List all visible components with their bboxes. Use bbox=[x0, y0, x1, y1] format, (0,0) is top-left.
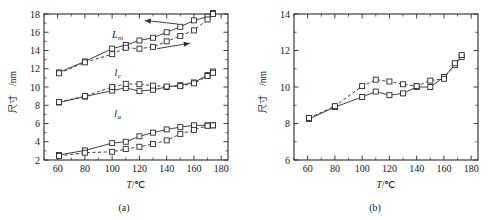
a-data-marker bbox=[191, 127, 196, 132]
b-ytick-label: 14 bbox=[280, 9, 290, 20]
a-ytick-label: 16 bbox=[30, 27, 40, 38]
a-data-marker bbox=[191, 81, 196, 86]
b-ytick-label: 12 bbox=[280, 45, 290, 56]
curve-label-lc-text: lc bbox=[114, 67, 121, 80]
b-xtick-label: 140 bbox=[409, 163, 424, 174]
a-data-marker bbox=[123, 147, 128, 152]
a-data-marker bbox=[211, 12, 216, 17]
a-data-marker bbox=[178, 125, 183, 130]
panel-b-svg: 608010012014016018068101214 T /℃ 尺寸 /nm … bbox=[248, 0, 497, 220]
b-data-marker bbox=[401, 91, 406, 96]
a-data-marker bbox=[178, 33, 183, 38]
a-xtick-label: 180 bbox=[214, 163, 229, 174]
a-data-marker bbox=[82, 150, 87, 155]
a-data-marker bbox=[56, 153, 61, 158]
b-data-marker bbox=[428, 85, 433, 90]
panel-b-axes-frame bbox=[294, 14, 478, 160]
a-data-marker bbox=[123, 139, 128, 144]
b-xtick-label: 80 bbox=[330, 163, 340, 174]
a-ytick-label: 12 bbox=[30, 63, 40, 74]
panel-b-x-axis-label-unit: /℃ bbox=[382, 180, 396, 190]
b-ytick-label: 10 bbox=[280, 82, 290, 93]
a-data-marker bbox=[151, 83, 156, 88]
a-data-marker bbox=[211, 70, 216, 75]
curve-label-Lm: Lm bbox=[111, 29, 123, 42]
panel-a-tick-labels: 608010012014016018024681012141618 bbox=[30, 9, 229, 175]
a-data-marker bbox=[191, 28, 196, 33]
a-data-marker bbox=[110, 52, 115, 57]
a-xtick-label: 160 bbox=[186, 163, 201, 174]
a-data-marker bbox=[151, 44, 156, 49]
b-data-marker bbox=[360, 95, 365, 100]
a-data-marker bbox=[164, 138, 169, 143]
b-xtick-label: 120 bbox=[382, 163, 397, 174]
a-xtick-label: 140 bbox=[159, 163, 174, 174]
b-xtick-label: 60 bbox=[303, 163, 313, 174]
b-data-marker bbox=[306, 116, 311, 121]
a-data-marker bbox=[137, 89, 142, 94]
a-data-marker bbox=[137, 82, 142, 87]
panel-b-ticks bbox=[294, 14, 478, 160]
a-ytick-label: 8 bbox=[35, 100, 40, 111]
panel-a-y-axis-label-unit: /nm bbox=[8, 71, 18, 86]
b-data-marker bbox=[387, 93, 392, 98]
panel-a-curve-labels: Lmlcla bbox=[111, 29, 123, 121]
a-data-marker bbox=[178, 84, 183, 89]
curve-label-lc: lc bbox=[114, 67, 121, 80]
cooling-arrow-head bbox=[183, 42, 189, 47]
a-data-marker bbox=[164, 30, 169, 35]
panel-b-y-axis-label-cjk: 尺寸 bbox=[257, 95, 268, 113]
a-data-marker bbox=[205, 74, 210, 79]
a-data-marker bbox=[110, 149, 115, 154]
a-data-marker bbox=[151, 130, 156, 135]
a-data-marker bbox=[82, 94, 87, 99]
a-data-marker bbox=[110, 46, 115, 51]
a-data-marker bbox=[178, 131, 183, 136]
panel-a-x-axis-label-unit: /℃ bbox=[132, 180, 146, 190]
b-series-line-0 bbox=[309, 57, 462, 119]
b-data-marker bbox=[360, 84, 365, 89]
heating-arrow-head bbox=[145, 18, 151, 23]
b-data-marker bbox=[428, 78, 433, 83]
a-data-marker bbox=[123, 81, 128, 86]
panel-b-tick-labels: 608010012014016018068101214 bbox=[280, 9, 479, 175]
curve-label-la-text: la bbox=[114, 108, 121, 121]
b-data-marker bbox=[373, 89, 378, 94]
panel-b-series-group bbox=[309, 55, 462, 119]
chart-panel-b: 608010012014016018068101214 T /℃ 尺寸 /nm … bbox=[248, 0, 497, 220]
b-data-marker bbox=[441, 76, 446, 81]
a-data-marker bbox=[137, 46, 142, 51]
a-data-marker bbox=[56, 71, 61, 76]
b-xtick-label: 100 bbox=[355, 163, 370, 174]
panel-a-caption: (a) bbox=[118, 202, 129, 214]
b-data-marker bbox=[452, 61, 457, 66]
a-xtick-label: 120 bbox=[132, 163, 147, 174]
figure-root: 608010012014016018024681012141618 Lmlcla… bbox=[0, 0, 497, 220]
panel-b-marker-group bbox=[306, 53, 464, 122]
a-ytick-label: 18 bbox=[30, 9, 40, 20]
a-data-marker bbox=[137, 38, 142, 43]
b-data-marker bbox=[401, 82, 406, 87]
a-xtick-label: 60 bbox=[53, 163, 63, 174]
b-xtick-label: 180 bbox=[464, 163, 479, 174]
a-data-marker bbox=[211, 123, 216, 128]
b-data-marker bbox=[387, 79, 392, 84]
a-ytick-label: 2 bbox=[35, 155, 40, 166]
a-data-marker bbox=[151, 35, 156, 40]
b-xtick-label: 160 bbox=[436, 163, 451, 174]
a-data-marker bbox=[205, 123, 210, 128]
a-data-marker bbox=[164, 127, 169, 132]
b-data-marker bbox=[459, 53, 464, 58]
a-data-marker bbox=[164, 39, 169, 44]
a-data-marker bbox=[123, 45, 128, 50]
b-data-marker bbox=[332, 104, 337, 109]
b-data-marker bbox=[373, 77, 378, 82]
a-xtick-label: 100 bbox=[105, 163, 120, 174]
panel-a-y-axis-label: 尺寸 /nm bbox=[7, 71, 18, 113]
a-data-marker bbox=[137, 134, 142, 139]
panel-b-caption: (b) bbox=[369, 202, 381, 214]
a-xtick-label: 80 bbox=[80, 163, 90, 174]
a-data-marker bbox=[191, 18, 196, 23]
b-ytick-label: 6 bbox=[285, 155, 290, 166]
a-data-marker bbox=[164, 84, 169, 89]
